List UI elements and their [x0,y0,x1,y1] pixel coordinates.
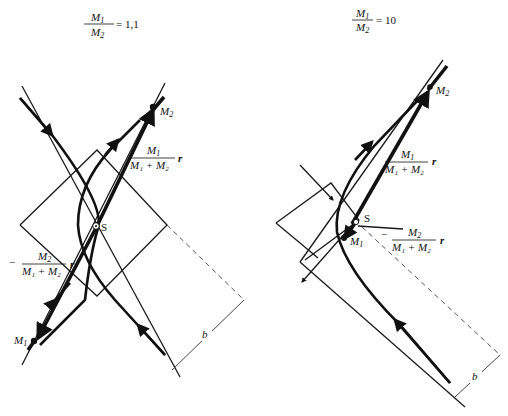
fraction-numerator: M2 [407,226,421,240]
label-vector-m1: − M2 M₁ + M₂ r [381,226,445,253]
label-m1: M1 [13,334,27,348]
ratio-numerator: M1 [355,7,369,21]
impact-dashed-line [362,227,500,355]
label-impact-parameter: b [202,328,208,340]
ratio-value: = 10 [376,14,396,26]
label-vector-m2: M1 M₁ + M₂ r [129,144,183,171]
direction-arrow [20,98,52,135]
asymptote-outgoing-line [300,60,443,262]
two-body-scattering-diagram: M1 M2 = 1,1 M2 M1 S M1 [0,0,508,416]
left-ratio-label: M1 M2 = 1,1 [84,11,139,40]
right-ratio-label: M1 M2 = 10 [352,7,396,35]
label-vector-m1: − M2 M₁ + M₂ r [9,250,75,277]
square-edge [276,223,318,258]
minus-sign: − [381,228,387,240]
vector-r: r [70,258,75,270]
center-of-mass-dot [95,225,97,227]
body-m1 [341,235,347,241]
direction-arrow [105,140,118,155]
label-m2: M2 [159,105,173,119]
vector-extension [28,343,33,350]
body-m2 [427,84,433,90]
trajectory-m1-incoming [300,165,333,200]
trajectory-m1-path [20,98,99,345]
left-panel: M1 M2 = 1,1 M2 M1 S M1 [9,11,244,377]
label-m2: M2 [435,84,449,98]
minus-sign: − [9,256,15,268]
fraction-denominator: M₁ + M₂ [384,163,424,175]
vector-r: r [432,155,437,167]
vector-r: r [440,234,445,246]
fraction-numerator: M1 [400,148,414,162]
ratio-denominator: M2 [90,26,104,40]
label-impact-parameter: b [472,370,478,382]
label-center-of-mass: S [101,221,107,233]
vector-r: r [178,152,183,164]
ratio-numerator: M1 [90,11,104,25]
fraction-denominator: M₁ + M₂ [129,159,169,171]
body-m2 [150,104,156,110]
label-m1: M1 [349,235,363,249]
right-panel: M1 M2 = 10 M2 M1 S M1 M₁ + M₂ [276,7,500,407]
fraction-denominator: M₁ + M₂ [21,265,61,277]
label-center-of-mass: S [364,212,370,224]
fraction-numerator: M1 [146,144,160,158]
ratio-denominator: M2 [355,21,369,35]
body-m1 [31,338,37,344]
fraction-denominator: M₁ + M₂ [391,241,431,253]
center-of-mass-marker [353,219,358,224]
ratio-value: = 1,1 [116,18,139,30]
direction-arrow [138,325,165,355]
reference-square [276,183,359,260]
direction-arrow [395,320,450,383]
impact-dashed-line [167,225,244,300]
asymptote-incoming-line [300,262,465,407]
